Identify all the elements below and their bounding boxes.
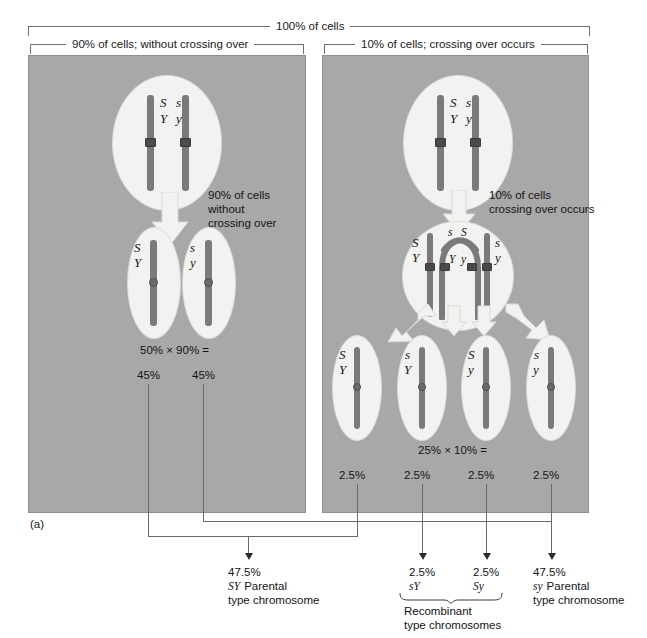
right-bracket-label: 10% of cells; crossing over occurs bbox=[355, 38, 541, 50]
crossover-allele-inner-right-top-S: S bbox=[461, 226, 467, 239]
sy-parental-result-arrowhead bbox=[548, 553, 556, 560]
right-arrow-caption-line2: crossing over occurs bbox=[489, 202, 594, 216]
left-parent-allele-S: S bbox=[160, 96, 167, 109]
crossover-allele-outer-left-S: S bbox=[412, 236, 419, 249]
sy-parental-merge-horizontal bbox=[203, 521, 552, 522]
left-calculation: 50% × 90% = bbox=[140, 343, 209, 357]
right-daughter-1-percent: 2.5% bbox=[339, 468, 365, 482]
right-parent-allele-Y: Y bbox=[450, 112, 457, 125]
left-daughter-1-allele-S: S bbox=[134, 241, 141, 254]
right-daughter-1-allele-S: S bbox=[339, 348, 346, 361]
right-parent-allele-S: S bbox=[450, 96, 457, 109]
left-connector-2-vertical bbox=[203, 384, 204, 521]
result-4-percent: 47.5% bbox=[533, 566, 566, 580]
left-daughter-1-allele-Y: Y bbox=[134, 256, 141, 269]
right-daughter-2-percent: 2.5% bbox=[404, 468, 430, 482]
right-connector-2-vertical bbox=[422, 484, 423, 553]
right-daughter-4-allele-s: s bbox=[534, 348, 539, 361]
right-parent-centromere-1 bbox=[435, 138, 446, 147]
right-parent-allele-y: y bbox=[466, 112, 472, 125]
right-connector-1-vertical bbox=[357, 484, 358, 521]
left-parent-allele-s: s bbox=[176, 96, 181, 109]
crossover-allele-inner-left-top-s: s bbox=[448, 226, 452, 239]
right-daughter-2-allele-Y: Y bbox=[404, 363, 411, 376]
left-daughter-1-percent: 45% bbox=[137, 368, 160, 382]
right-parent-centromere-2 bbox=[470, 138, 481, 147]
recombinant-Sy-arrowhead bbox=[483, 553, 491, 560]
right-daughter-centromere-3 bbox=[482, 383, 490, 391]
top-bracket-label: 100% of cells bbox=[270, 20, 350, 32]
result-4-genotype: sy bbox=[533, 580, 543, 592]
right-connector-4-vertical bbox=[551, 484, 552, 521]
right-daughter-centromere-2 bbox=[418, 383, 426, 391]
right-connector-3-vertical bbox=[486, 484, 487, 553]
meiosis-crossing-over-figure: 100% of cells 90% of cells; without cros… bbox=[0, 0, 647, 638]
sy-merge-horizontal bbox=[148, 536, 358, 537]
right-daughter-3-allele-y: y bbox=[468, 363, 474, 376]
left-parent-allele-y: y bbox=[176, 112, 182, 125]
left-daughter-centromere-1 bbox=[149, 278, 158, 287]
right-calculation: 25% × 10% = bbox=[418, 443, 487, 457]
left-parent-allele-Y: Y bbox=[160, 112, 167, 125]
result-1-line1: SYParental bbox=[228, 580, 287, 594]
right-daughter-centromere-4 bbox=[547, 383, 555, 391]
right-daughter-3-percent: 2.5% bbox=[468, 468, 494, 482]
result-1-genotype: SY bbox=[228, 580, 240, 592]
recombinant-sY-arrowhead bbox=[419, 553, 427, 560]
left-daughter-2-percent: 45% bbox=[192, 368, 215, 382]
result-4-line2: type chromosome bbox=[533, 594, 624, 608]
left-connector-1-vertical bbox=[148, 384, 149, 536]
left-daughter-2-allele-s: s bbox=[190, 241, 195, 254]
sy-merge-down-stub bbox=[357, 521, 358, 536]
crossover-centromere-outer-left bbox=[425, 263, 435, 271]
figure-label: (a) bbox=[30, 518, 44, 530]
left-daughter-centromere-2 bbox=[204, 278, 213, 287]
crossover-allele-outer-right-y: y bbox=[495, 251, 501, 264]
result-4-line1: syParental bbox=[533, 580, 589, 594]
crossover-centromere-inner-right bbox=[467, 263, 477, 271]
right-daughter-4-percent: 2.5% bbox=[533, 468, 559, 482]
left-parent-centromere-1 bbox=[145, 138, 156, 147]
left-arrow-caption-line2: without bbox=[208, 202, 244, 216]
result-2-percent: 2.5% bbox=[409, 566, 435, 580]
right-daughter-3-allele-S: S bbox=[468, 348, 475, 361]
left-arrow-caption-line1: 90% of cells bbox=[208, 188, 270, 202]
right-parent-allele-s: s bbox=[466, 96, 471, 109]
result-4-line1-rest: Parental bbox=[547, 580, 590, 592]
left-parent-centromere-2 bbox=[180, 138, 191, 147]
result-1-line1-rest: Parental bbox=[244, 580, 287, 592]
sy-parental-arrow-stem bbox=[551, 521, 552, 555]
recombinant-label-line1: Recombinant bbox=[404, 605, 472, 619]
result-1-percent: 47.5% bbox=[228, 566, 261, 580]
sy-result-arrowhead bbox=[245, 553, 253, 560]
crossover-allele-inner-left-bottom-Y: Y bbox=[449, 253, 455, 266]
left-daughter-2-allele-y: y bbox=[190, 256, 196, 269]
crossover-centromere-outer-right bbox=[482, 263, 492, 271]
left-arrow-caption-line3: crossing over bbox=[208, 216, 276, 230]
right-daughter-1-allele-Y: Y bbox=[339, 363, 346, 376]
left-parent-cell bbox=[113, 76, 221, 210]
result-3-genotype-text: Sy bbox=[473, 580, 484, 592]
result-3-percent: 2.5% bbox=[473, 566, 499, 580]
result-2-genotype-text: sY bbox=[409, 580, 420, 592]
crossover-allele-inner-right-bottom-y: y bbox=[461, 253, 466, 266]
crossover-allele-outer-right-s: s bbox=[495, 236, 500, 249]
right-daughter-4-allele-y: y bbox=[533, 363, 539, 376]
crossover-allele-outer-left-Y: Y bbox=[412, 251, 419, 264]
left-bracket-label: 90% of cells; without crossing over bbox=[66, 38, 254, 50]
result-1-line2: type chromosome bbox=[228, 594, 319, 608]
recombinant-brace-icon bbox=[399, 592, 503, 604]
recombinant-label-line2: type chromosomes bbox=[404, 619, 501, 633]
right-daughter-centromere-1 bbox=[353, 383, 361, 391]
right-daughter-2-allele-s: s bbox=[405, 348, 410, 361]
right-arrow-caption-line1: 10% of cells bbox=[489, 188, 551, 202]
